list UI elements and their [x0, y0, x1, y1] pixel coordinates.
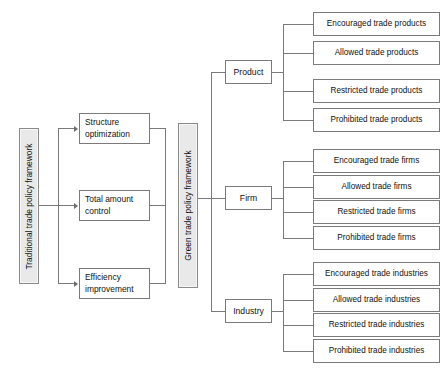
- leaf-box-restricted-trade-products: Restricted trade products: [313, 79, 440, 103]
- connector-industry-leaf-2: [283, 300, 313, 301]
- connector-product-leaf-4: [283, 120, 313, 121]
- leaf-box-restricted-trade-industries: Restricted trade industries: [313, 313, 440, 337]
- connector-green-out: [198, 198, 211, 199]
- connector-to-industry: [211, 311, 225, 312]
- connector-to-efficiency: [58, 283, 74, 284]
- leaf-box-encouraged-trade-products: Encouraged trade products: [313, 12, 440, 36]
- category-box-industry: Industry: [225, 299, 272, 323]
- trade-policy-framework-diagram: Traditional trade policy framework Struc…: [0, 0, 447, 382]
- connector-firm-leaf-3: [283, 212, 313, 213]
- stage-efficiency-text: Efficiency improvement: [80, 272, 149, 295]
- connector-industry-leaf-1: [283, 274, 313, 275]
- arrowhead-efficiency-icon: [74, 281, 78, 287]
- leaf-box-encouraged-trade-industries: Encouraged trade industries: [313, 262, 440, 286]
- stage-structure-text: Structure optimization: [80, 117, 149, 140]
- green-framework-node: Green trade policy framework: [178, 123, 198, 288]
- connector-firm-bus: [283, 161, 284, 238]
- connector-to-structure: [58, 128, 74, 129]
- leaf-box-restricted-trade-firms: Restricted trade firms: [313, 200, 440, 224]
- category-box-product: Product: [225, 60, 272, 84]
- connector-firm-leaf-2: [283, 187, 313, 188]
- connector-industry-out: [272, 311, 283, 312]
- leaf-box-prohibited-trade-industries: Prohibited trade industries: [313, 339, 440, 363]
- stage-box-efficiency-improvement: Efficiency improvement: [79, 268, 150, 299]
- arrowhead-structure-icon: [74, 126, 78, 132]
- connector-product-leaf-2: [283, 53, 313, 54]
- connector-firm-leaf-1: [283, 161, 313, 162]
- connector-traditional-out: [39, 205, 58, 206]
- connector-stage-merge-bus: [165, 128, 166, 284]
- connector-to-product: [211, 72, 225, 73]
- connector-firm-out: [272, 198, 283, 199]
- connector-product-bus: [283, 24, 284, 121]
- connector-efficiency-out: [150, 283, 166, 284]
- connector-product-leaf-3: [283, 91, 313, 92]
- stage-box-total-amount-control: Total amount control: [79, 190, 150, 221]
- connector-category-trunk: [211, 72, 212, 312]
- leaf-box-allowed-trade-products: Allowed trade products: [313, 41, 440, 65]
- connector-to-total-amount: [58, 205, 74, 206]
- leaf-box-prohibited-trade-products: Prohibited trade products: [313, 108, 440, 132]
- green-framework-label: Green trade policy framework: [184, 150, 193, 260]
- connector-total-amount-out: [150, 205, 166, 206]
- connector-to-firm: [211, 198, 225, 199]
- connector-industry-leaf-3: [283, 325, 313, 326]
- connector-firm-leaf-4: [283, 238, 313, 239]
- leaf-box-encouraged-trade-firms: Encouraged trade firms: [313, 149, 440, 173]
- traditional-framework-node: Traditional trade policy framework: [19, 128, 39, 284]
- leaf-box-allowed-trade-industries: Allowed trade industries: [313, 288, 440, 312]
- arrowhead-total-amount-icon: [74, 203, 78, 209]
- connector-structure-out: [150, 128, 166, 129]
- category-box-firm: Firm: [225, 186, 272, 210]
- stage-box-structure-optimization: Structure optimization: [79, 113, 150, 144]
- stage-total-amount-text: Total amount control: [80, 194, 149, 217]
- connector-product-leaf-1: [283, 24, 313, 25]
- traditional-framework-label: Traditional trade policy framework: [25, 143, 34, 269]
- leaf-box-allowed-trade-firms: Allowed trade firms: [313, 175, 440, 199]
- leaf-box-prohibited-trade-firms: Prohibited trade firms: [313, 226, 440, 250]
- connector-product-out: [272, 72, 283, 73]
- connector-industry-leaf-4: [283, 351, 313, 352]
- connector-industry-bus: [283, 274, 284, 351]
